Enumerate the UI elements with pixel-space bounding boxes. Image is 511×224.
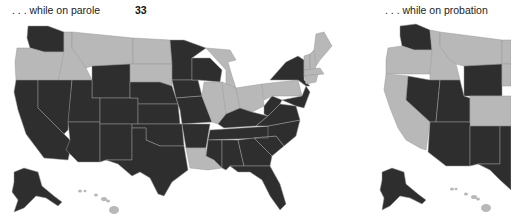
state-NM — [100, 124, 132, 162]
state-OR — [15, 48, 64, 82]
state-HI — [78, 190, 119, 215]
state-WI — [192, 58, 222, 82]
state-OR — [386, 46, 432, 74]
state-ND — [502, 40, 511, 64]
parole-map — [12, 26, 332, 214]
state-CO — [100, 98, 138, 124]
maps-canvas — [0, 0, 511, 224]
state-WY — [92, 64, 130, 98]
state-AR — [182, 124, 210, 148]
state-KS — [138, 104, 180, 124]
state-WY — [464, 64, 502, 96]
state-AK — [380, 168, 426, 210]
state-OH — [236, 84, 264, 112]
state-IA — [172, 80, 202, 98]
probation-map — [380, 24, 511, 212]
state-AK — [12, 168, 62, 212]
state-AZ — [428, 122, 470, 166]
state-AZ — [66, 122, 100, 162]
state-SD — [502, 64, 511, 86]
state-WA — [27, 26, 64, 52]
state-FL — [230, 166, 286, 210]
state-CO — [470, 96, 511, 126]
state-ME — [314, 32, 332, 66]
state-HI — [450, 188, 491, 213]
state-ND — [133, 38, 172, 64]
state-NM — [470, 126, 500, 166]
state-WA — [400, 24, 432, 50]
state-VT — [304, 54, 310, 70]
state-CT-RI — [304, 74, 318, 84]
